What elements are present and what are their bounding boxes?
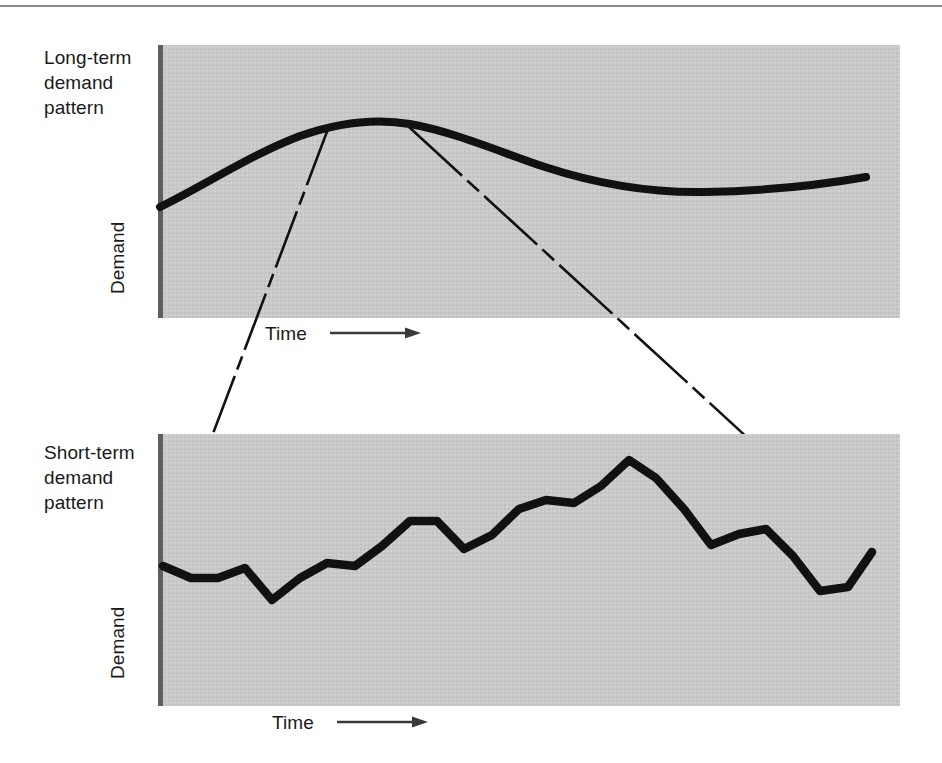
figure-graphic (0, 0, 942, 763)
short-term-panel-label: Short-term demand pattern (44, 440, 135, 515)
short-term-plot-area (158, 434, 900, 706)
figure-container: Long-term demand pattern Short-term dema… (0, 0, 942, 763)
short-term-x-axis-label: Time (272, 712, 314, 734)
time-arrow-head-top (405, 328, 421, 339)
time-arrow-head-bottom (412, 717, 428, 728)
short-term-y-axis-label: Demand (107, 607, 129, 679)
long-term-panel (158, 45, 900, 318)
long-term-x-axis-label: Time (265, 323, 307, 345)
long-term-y-axis-label: Demand (107, 222, 129, 294)
long-term-panel-label: Long-term demand pattern (44, 45, 132, 120)
short-term-panel (158, 434, 900, 706)
long-term-plot-area (158, 45, 900, 318)
